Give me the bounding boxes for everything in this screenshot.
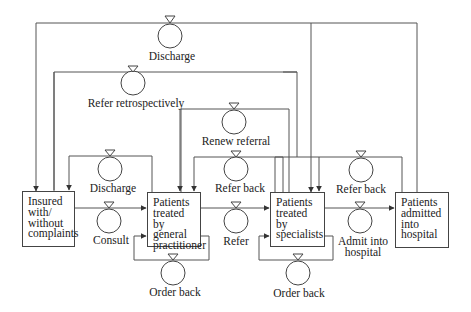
- valve-refer-icon: [224, 202, 248, 233]
- stock-specialists: Patients treated by specialists: [270, 192, 325, 247]
- label-refer-back-spec: Refer back: [336, 183, 386, 196]
- label-discharge-gp: Discharge: [90, 182, 136, 195]
- flow-refer-retro-line: [54, 72, 297, 191]
- valve-refer-retro-icon: [121, 66, 145, 95]
- valve-renew-referral-icon: [222, 103, 246, 134]
- label-refer-retro: Refer retrospectively: [88, 97, 185, 110]
- valve-admit-icon: [348, 202, 372, 233]
- valve-order-back-spec-icon: [286, 254, 310, 285]
- valve-order-back-gp-icon: [161, 254, 185, 285]
- valve-refer-back-spec-icon: [349, 151, 373, 182]
- stock-hospital: Patients admitted into hospital: [395, 192, 449, 248]
- valve-refer-back-gp-icon: [224, 151, 248, 181]
- label-refer: Refer: [223, 235, 249, 248]
- valve-discharge-top-icon: [158, 16, 182, 48]
- label-order-back-spec: Order back: [273, 287, 324, 300]
- stock-hospital-label: Patients admitted into hospital: [401, 197, 443, 240]
- stock-insured-label: Insured with/ without complaints: [28, 196, 69, 239]
- stock-gp: Patients treated by general practitioner: [147, 192, 201, 247]
- stock-gp-label: Patients treated by general practitioner: [153, 197, 195, 251]
- stock-specialists-label: Patients treated by specialists: [276, 197, 319, 240]
- valve-discharge-gp-icon: [98, 150, 122, 181]
- label-order-back-gp: Order back: [149, 286, 200, 299]
- diagram-canvas: [0, 0, 471, 312]
- label-discharge-top: Discharge: [149, 50, 195, 63]
- valve-consult-icon: [97, 202, 121, 233]
- stock-insured: Insured with/ without complaints: [22, 191, 75, 247]
- label-renew-referral: Renew referral: [202, 135, 271, 148]
- label-consult: Consult: [93, 234, 129, 247]
- label-admit-line2: hospital: [345, 246, 381, 259]
- label-refer-back-gp: Refer back: [215, 182, 265, 195]
